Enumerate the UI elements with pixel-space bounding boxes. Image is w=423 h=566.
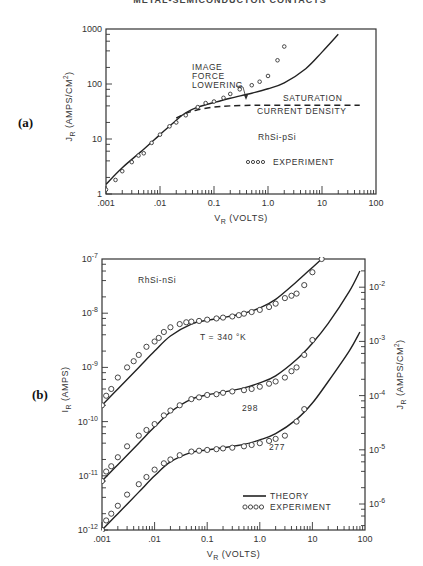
annotation-image-force: LOWERING: [192, 80, 243, 90]
x-tick-label: .001: [97, 198, 115, 208]
panel-label: (b): [32, 387, 48, 402]
legend: THEORYEXPERIMENT: [243, 491, 331, 512]
x-tick-label: 0.1: [201, 534, 214, 544]
y-tick-label: 10-9: [82, 360, 98, 372]
panel-label: (a): [18, 115, 33, 130]
x-tick-label: .01: [148, 534, 161, 544]
x-tick-label: 1.0: [254, 534, 267, 544]
series-group: [99, 256, 360, 532]
y-axis-title: IR (AMPS): [60, 366, 72, 412]
sample-label: RhSi-pSi: [258, 132, 296, 142]
y-tick-label: 1: [97, 189, 102, 199]
chart-a: .001.010.11.0101001101001000VR (VOLTS)JR…: [18, 24, 384, 225]
annotation-temp-277: 277: [269, 442, 285, 452]
y-tick-label: 1000: [82, 24, 102, 34]
y-right-tick-label: 10-6: [369, 497, 385, 509]
x-tick-label: .01: [154, 198, 167, 208]
y-right-tick-label: 10-5: [369, 443, 385, 455]
legend-theory: THEORY: [270, 491, 309, 501]
y-right-tick-label: 10-3: [369, 334, 385, 346]
x-tick-label: 0.1: [208, 198, 221, 208]
y-tick-label: 10-7: [82, 252, 98, 264]
y-axis-right: 10-610-510-410-310-2JR (AMPS/CM2): [359, 271, 407, 526]
legend: EXPERIMENT: [246, 157, 334, 167]
y-tick-label: 10-8: [82, 306, 98, 318]
figure-canvas: .001.010.11.0101001101001000VR (VOLTS)JR…: [0, 0, 423, 566]
sample-label: RhSi-nSi: [138, 275, 176, 285]
y-right-tick-label: 10-4: [369, 389, 385, 401]
chart-b: .001.010.11.01010010-1210-1110-1010-910-…: [32, 252, 407, 561]
legend-experiment: EXPERIMENT: [273, 157, 334, 167]
legend-experiment: EXPERIMENT: [270, 502, 331, 512]
x-tick-label: .001: [93, 534, 111, 544]
annotation-temp-298: 298: [242, 403, 258, 413]
x-tick-label: 10: [317, 198, 327, 208]
y-axis: 10-1210-1110-1010-910-810-7: [78, 252, 108, 535]
theory-curve: [102, 332, 360, 530]
y-axis-title: JR (AMPS/CM2): [62, 71, 76, 141]
annotation-saturation: SATURATION: [283, 93, 343, 103]
x-tick-label: 1.0: [262, 198, 275, 208]
annotation-temp-340: T = 340 °K: [200, 332, 246, 342]
y-tick-label: 10-11: [78, 469, 98, 481]
annotation-saturation: CURRENT DENSITY: [257, 106, 347, 116]
x-tick-label: 10: [307, 534, 317, 544]
x-axis: .001.010.11.010100: [93, 522, 372, 544]
y-right-axis-title: JR (AMPS/CM2): [393, 339, 407, 409]
x-tick-label: 100: [368, 198, 383, 208]
y-tick-label: 10: [92, 134, 102, 144]
x-axis-title: VR (VOLTS): [207, 549, 260, 561]
experiment-points: [99, 407, 306, 533]
y-tick-label: 100: [87, 79, 102, 89]
y-right-tick-label: 10-2: [369, 280, 385, 292]
x-axis-title: VR (VOLTS): [214, 213, 267, 225]
y-axis: 1101001000: [82, 24, 112, 199]
x-axis: .001.010.11.010100: [97, 186, 383, 208]
y-tick-label: 10-10: [78, 415, 98, 427]
x-tick-label: 100: [357, 534, 372, 544]
